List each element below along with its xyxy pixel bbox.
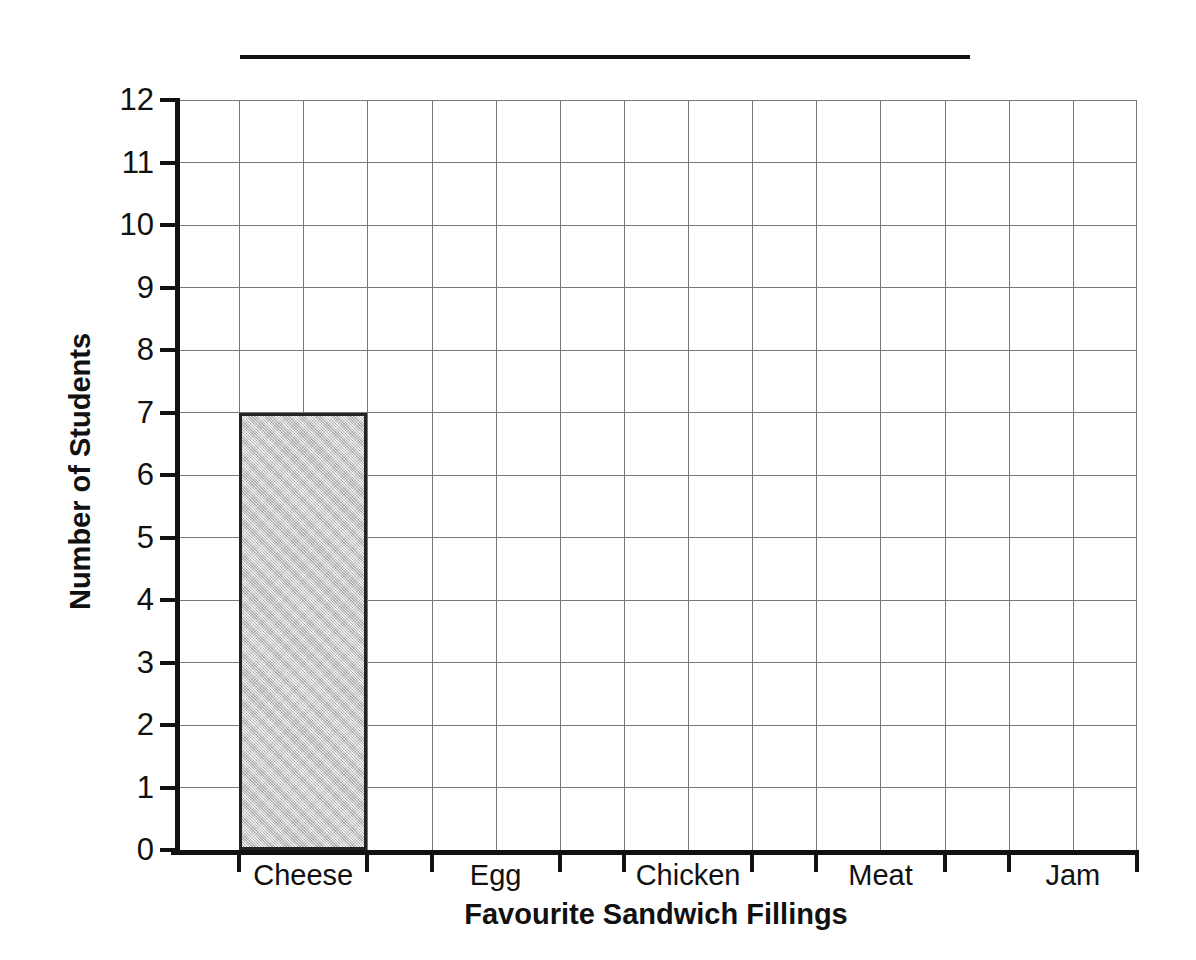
x-axis-title: Favourite Sandwich Fillings [175,898,1137,931]
y-axis-tick [160,223,180,227]
y-axis-tick-label: 6 [94,459,154,490]
y-axis-tick [160,286,180,290]
x-axis-line [171,850,1139,855]
y-axis-tick-label: 0 [94,834,154,865]
y-axis-tick [160,473,180,477]
x-axis-category-label: Jam [979,858,1167,893]
y-axis-tick-label: 2 [94,709,154,740]
y-axis-tick-label: 7 [94,397,154,428]
x-axis-category-label: Chicken [594,858,782,893]
y-axis-tick [160,98,180,102]
y-axis-tick-label: 12 [94,84,154,115]
y-axis-title: Number of Students [64,92,97,852]
y-axis-tick [160,536,180,540]
y-axis-tick [160,786,180,790]
grid-right-border [1136,100,1137,850]
title-blank-rule [240,55,970,59]
y-axis-tick [160,411,180,415]
y-axis-tick-label: 1 [94,772,154,803]
y-axis-tick [160,848,180,852]
bar-cheese [239,413,367,851]
bar-chart: 0123456789101112 CheeseEggChickenMeatJam… [0,0,1196,960]
plot-area [175,100,1137,850]
y-axis-tick-label: 9 [94,272,154,303]
y-axis-tick-label: 4 [94,584,154,615]
grid-top-border [175,100,1137,101]
y-axis-tick [160,661,180,665]
x-axis-category-label: Cheese [209,858,397,893]
y-axis-tick-label: 11 [94,147,154,178]
y-axis-tick [160,598,180,602]
y-axis-tick [160,161,180,165]
y-axis-tick [160,348,180,352]
x-axis-category-label: Meat [786,858,974,893]
y-axis-tick-label: 5 [94,522,154,553]
y-axis-tick-label: 8 [94,334,154,365]
x-axis-category-label: Egg [402,858,590,893]
y-axis-tick [160,723,180,727]
y-axis-tick-label: 3 [94,647,154,678]
y-axis-tick-label: 10 [94,209,154,240]
